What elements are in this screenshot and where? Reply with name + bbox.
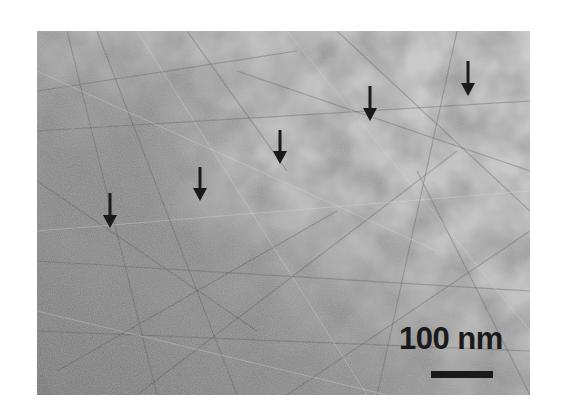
scale-bar-label: 100 nm bbox=[399, 321, 503, 357]
arrow-down-icon bbox=[273, 130, 287, 164]
tem-micrograph: 100 nm bbox=[37, 31, 530, 395]
arrow-down-icon bbox=[461, 61, 475, 96]
arrow-down-icon bbox=[193, 167, 207, 201]
arrow-down-icon bbox=[363, 86, 377, 121]
scale-bar bbox=[431, 371, 493, 378]
arrow-down-icon bbox=[103, 193, 117, 228]
